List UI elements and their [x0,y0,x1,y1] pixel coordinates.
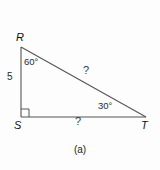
figure-caption: (a) [0,145,160,155]
vertex-label-t: T [141,120,148,131]
vertex-label-s: S [14,120,21,131]
angle-label-r: 60° [24,57,38,67]
vertex-label-r: R [16,32,24,43]
angle-label-t: 30° [98,101,112,111]
figure-container: R S T 60° 30° 5 ? ? (a) [0,0,160,170]
side-length-label-st-unknown: ? [75,116,81,127]
right-angle-marker-icon [21,109,29,117]
side-length-label-rt-unknown: ? [83,65,89,76]
side-length-label-rs: 5 [7,72,13,82]
side-rt-hypotenuse-line [21,47,146,117]
